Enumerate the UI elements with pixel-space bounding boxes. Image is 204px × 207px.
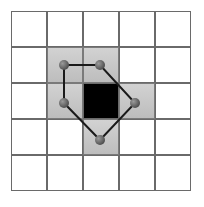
polygon-overlay [0, 0, 204, 207]
vertex-node [59, 98, 69, 108]
polygon-nodes [59, 60, 140, 145]
boundary-polygon [64, 65, 135, 140]
vertex-node [130, 98, 140, 108]
vertex-node [95, 60, 105, 70]
vertex-node [95, 135, 105, 145]
vertex-node [59, 60, 69, 70]
